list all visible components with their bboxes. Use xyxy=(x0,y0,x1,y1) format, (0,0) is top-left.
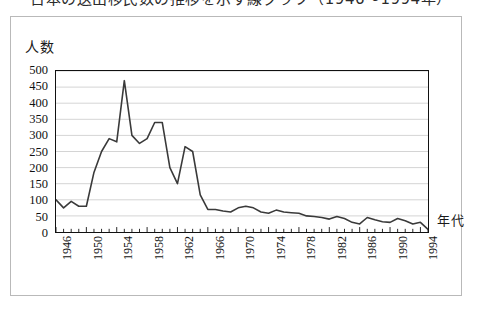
x-tick-1990: 1990 xyxy=(396,236,411,260)
x-tick-1978: 1978 xyxy=(304,236,319,260)
y-tick-500: 500 xyxy=(14,64,48,77)
y-tick-0: 0 xyxy=(14,227,48,240)
x-tick-1954: 1954 xyxy=(121,236,136,260)
y-tick-50: 50 xyxy=(14,211,48,224)
x-tick-1994: 1994 xyxy=(426,236,441,260)
x-tick-1966: 1966 xyxy=(213,236,228,260)
page-title: 日本の送出移民数の推移を示す線グラフ（1946～1994年） xyxy=(30,0,451,8)
y-axis-tick-labels: 500450400350300250200150100500 xyxy=(14,70,48,233)
y-tick-300: 300 xyxy=(14,129,48,142)
x-tick-1958: 1958 xyxy=(152,236,167,260)
y-tick-400: 400 xyxy=(14,97,48,110)
x-tick-1986: 1986 xyxy=(365,236,380,260)
y-axis-caption: 人数 xyxy=(25,36,55,56)
y-tick-100: 100 xyxy=(14,194,48,207)
y-tick-200: 200 xyxy=(14,162,48,175)
y-tick-150: 150 xyxy=(14,178,48,191)
y-tick-350: 350 xyxy=(14,113,48,126)
x-tick-1982: 1982 xyxy=(335,236,350,260)
x-axis-caption: 年代 xyxy=(437,210,465,229)
y-tick-450: 450 xyxy=(14,80,48,93)
clipped-title-strip: 日本の送出移民数の推移を示す線グラフ（1946～1994年） xyxy=(0,0,482,13)
y-tick-250: 250 xyxy=(14,146,48,159)
plot-area xyxy=(55,70,429,233)
x-tick-1950: 1950 xyxy=(91,236,106,260)
x-tick-1946: 1946 xyxy=(60,236,75,260)
x-tick-1974: 1974 xyxy=(274,236,289,260)
x-axis-tick-labels: 1946195019541958196219661970197419781982… xyxy=(55,236,429,288)
data-series-line xyxy=(56,71,428,232)
x-tick-1970: 1970 xyxy=(243,236,258,260)
x-tick-1962: 1962 xyxy=(182,236,197,260)
